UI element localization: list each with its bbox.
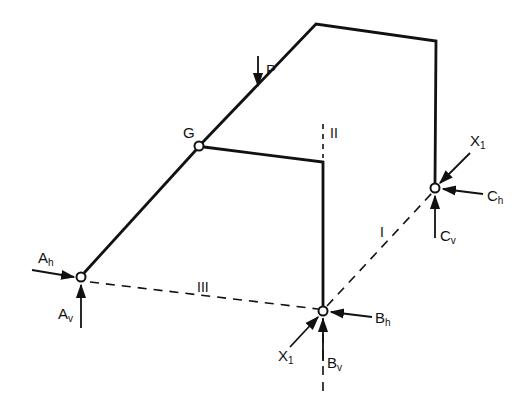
C-h-label: Ch [487,188,503,206]
X1-B-label: X1 [278,348,294,366]
support-C-hinge [431,184,440,193]
hinge-G [195,142,204,151]
B-h-label: Bh [375,310,391,328]
B-h-arrow [331,312,372,317]
support-A-hinge [77,273,86,282]
A-v-label: Av [58,306,73,324]
A-h-label: Ah [38,250,54,268]
axis-II-label: II [330,126,338,140]
A-h-arrow [32,270,74,277]
diagram-graphics [0,0,528,403]
load-P-label: P [266,62,276,77]
support-B-hinge [319,307,328,316]
frame-diagram: P G Ah Av Bh Bv X1 Ch Cv X1 III I II [0,0,528,403]
inner-frame-member [204,147,323,306]
axis-I-label: I [380,225,384,239]
X1-B-arrow [290,317,318,347]
C-v-label: Cv [440,228,456,246]
axis-III-label: III [197,280,209,294]
X1-C-label: X1 [470,133,486,151]
axis-I-dashed-line [327,193,432,306]
hinge-G-label: G [183,125,195,140]
outer-frame-upper-member [202,24,436,183]
C-h-arrow [443,189,483,194]
X1-C-arrow [440,153,470,183]
outer-frame-member [84,150,196,273]
B-v-label: Bv [327,355,342,373]
